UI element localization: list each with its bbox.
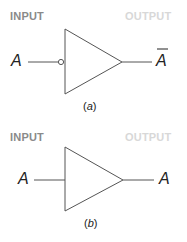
caption: (a) [83, 100, 96, 112]
output-signal: A [159, 170, 170, 188]
input-signal: A [18, 170, 29, 188]
caption: (b) [84, 217, 97, 229]
input-signal: A [11, 52, 22, 70]
triangle-gate-icon [65, 147, 123, 211]
output-signal-inverted: A [156, 52, 167, 70]
diagram-a-inverter: INPUT OUTPUT A A (a) [0, 0, 187, 121]
triangle-gate-icon [65, 29, 122, 94]
inversion-bubble-icon [58, 59, 63, 64]
diagram-b-buffer: INPUT OUTPUT A A (b) [0, 121, 187, 242]
